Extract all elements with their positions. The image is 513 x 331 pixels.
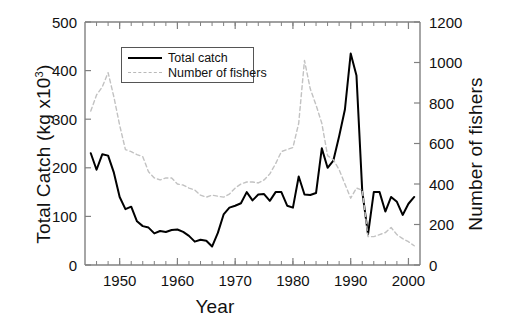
legend-label-number-of-fishers: Number of fishers xyxy=(168,66,267,80)
legend-swatch-dashed-icon xyxy=(128,68,162,78)
y-axis-right-title: Number of fishers xyxy=(465,29,487,279)
y-axis-right-tick-label: 200 xyxy=(429,216,454,233)
legend-label-total-catch: Total catch xyxy=(168,51,228,65)
y-axis-left-tick-label: 100 xyxy=(52,208,77,225)
y-axis-left-tick-label: 0 xyxy=(69,257,77,274)
x-axis-tick-label: 1970 xyxy=(218,272,251,289)
y-axis-right-tick-label: 800 xyxy=(429,95,454,112)
y-axis-left-tick-label: 300 xyxy=(52,111,77,128)
y-axis-right-tick-label: 1200 xyxy=(429,14,462,31)
legend-item-number-of-fishers: Number of fishers xyxy=(128,66,267,80)
y-axis-left-title-main: Total Catch (kg x10 xyxy=(33,77,54,243)
y-axis-left-title: Total Catch (kg x103) xyxy=(33,29,55,279)
x-axis-title: Year xyxy=(0,296,430,318)
x-axis-tick-label: 2000 xyxy=(392,272,425,289)
x-axis-tick-label: 1980 xyxy=(276,272,309,289)
y-axis-right-tick-label: 400 xyxy=(429,176,454,193)
x-axis-tick-label: 1950 xyxy=(103,272,136,289)
chart-figure: 1950196019701980199020000100200300400500… xyxy=(0,0,513,331)
x-axis-tick-label: 1960 xyxy=(161,272,194,289)
y-axis-left-title-end: ) xyxy=(33,65,54,72)
legend-swatch-solid-icon xyxy=(128,53,162,63)
y-axis-left-tick-label: 500 xyxy=(52,14,77,31)
y-axis-right-tick-label: 600 xyxy=(429,135,454,152)
y-axis-right-tick-label: 1000 xyxy=(429,54,462,71)
legend: Total catch Number of fishers xyxy=(121,47,254,83)
y-axis-left-tick-label: 400 xyxy=(52,62,77,79)
legend-item-total-catch: Total catch xyxy=(128,51,228,65)
y-axis-left-tick-label: 200 xyxy=(52,159,77,176)
y-axis-right-tick-label: 0 xyxy=(429,257,437,274)
chart-plot-area: 1950196019701980199020000100200300400500… xyxy=(0,0,513,331)
y-axis-left-title-exponent: 3 xyxy=(33,71,45,77)
x-axis-tick-label: 1990 xyxy=(334,272,367,289)
